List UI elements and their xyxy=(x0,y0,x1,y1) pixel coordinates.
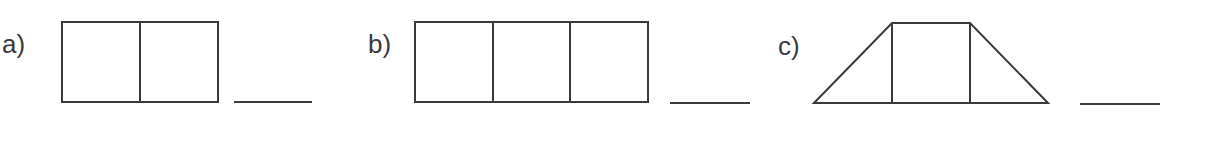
figure-c xyxy=(814,23,1048,103)
figure-b xyxy=(415,22,648,102)
figure-a xyxy=(62,22,218,102)
figures xyxy=(0,0,1220,163)
